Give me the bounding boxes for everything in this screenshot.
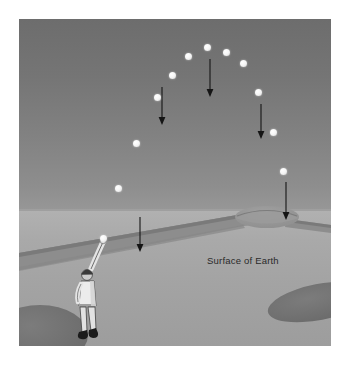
ball-rising-1 (115, 185, 122, 192)
ball-rising-2 (133, 140, 140, 147)
ball-rising-3 (154, 94, 161, 101)
ball-falling-3 (270, 129, 277, 136)
ball-rising-4 (169, 72, 176, 79)
ball-falling-4 (280, 168, 287, 175)
ball-apex (204, 44, 211, 51)
surface-of-earth-label: Surface of Earth (207, 255, 279, 266)
projectile-motion-illustration: Surface of Earth (19, 19, 331, 346)
ball-near-apex-2 (223, 49, 230, 56)
ball-near-apex-1 (185, 53, 192, 60)
ball-falling-2 (255, 89, 262, 96)
ball-at-release (100, 235, 107, 242)
figure-root: Surface of Earth (0, 0, 346, 367)
person-throwing-ball (19, 19, 331, 346)
ball-falling-1 (240, 60, 247, 67)
